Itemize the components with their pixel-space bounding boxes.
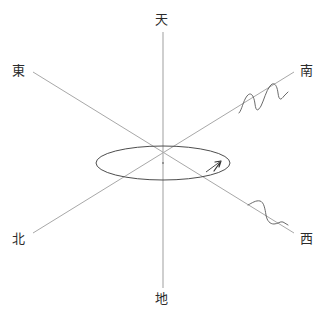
rotation-arrow-icon xyxy=(214,161,221,171)
axis-label-bottom-left-north: 北 xyxy=(12,232,25,245)
axis-label-top-right-south: 南 xyxy=(300,64,313,77)
wave-lower-right xyxy=(248,201,288,225)
axis-label-bottom-earth: 地 xyxy=(155,292,168,305)
axis-label-top-heaven: 天 xyxy=(155,13,168,26)
diagram-canvas: 天 地 東 南 北 西 xyxy=(0,0,326,324)
origin-point xyxy=(162,162,164,164)
axis-label-bottom-right-west: 西 xyxy=(300,232,313,245)
compass-axes-diagram xyxy=(0,0,326,324)
wave-upper-right xyxy=(239,84,288,113)
axis-label-top-left-east: 東 xyxy=(12,64,25,77)
